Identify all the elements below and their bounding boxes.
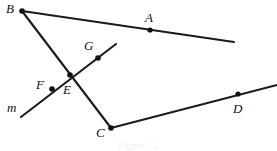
point-label-d: D <box>233 102 242 115</box>
figure-caption: Figure 1.1 <box>0 140 277 151</box>
point-label-a: A <box>145 11 153 24</box>
point-label-f: F <box>36 78 44 91</box>
geometry-canvas <box>0 0 277 151</box>
point-label-g: G <box>84 39 93 52</box>
point-dot-f <box>49 86 55 92</box>
geometry-figure: A B C D E F G m Figure 1.1 <box>0 0 277 151</box>
point-dot-g <box>95 55 101 61</box>
point-label-b: B <box>6 2 14 15</box>
segment-b-e-c <box>22 11 111 128</box>
point-dot-d <box>235 91 240 96</box>
ray-b-through-a <box>22 11 234 42</box>
segment-c-through-d <box>111 85 277 128</box>
line-label-m: m <box>7 101 16 114</box>
point-label-e: E <box>63 83 71 96</box>
point-dot-c <box>108 125 114 131</box>
point-label-c: C <box>96 126 105 139</box>
point-dot-e <box>67 72 73 78</box>
point-dot-b <box>19 8 25 14</box>
point-dot-a <box>147 27 152 32</box>
